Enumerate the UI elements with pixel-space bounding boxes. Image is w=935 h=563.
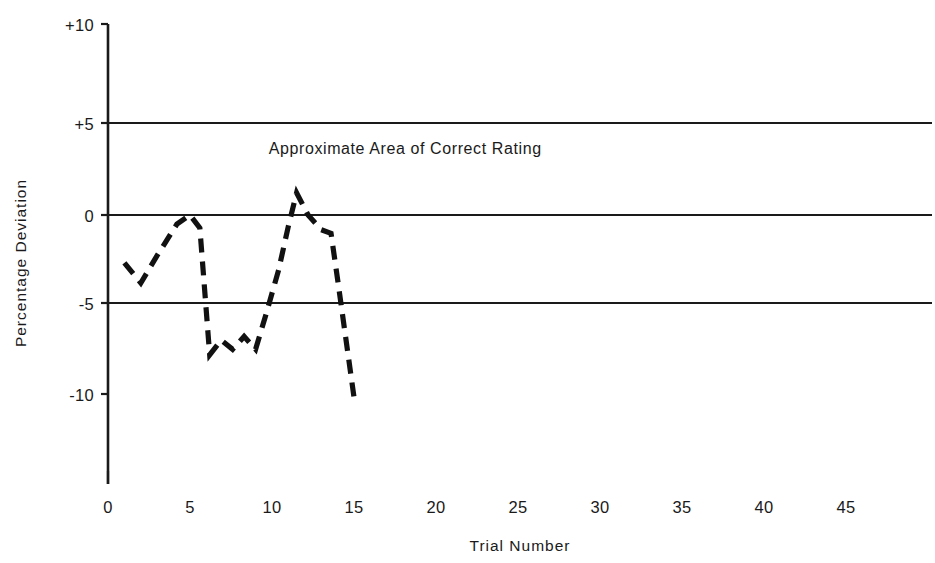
chart-svg: +10 +5 0 -5 -10 0 5 10 15 20 25 30 35 40… — [0, 0, 935, 563]
x-tick-label-15: 15 — [345, 498, 364, 516]
y-axis — [101, 24, 108, 484]
x-tick-label-25: 25 — [509, 498, 528, 516]
x-tick-label-5: 5 — [185, 498, 194, 516]
x-tick-labels: 0 5 10 15 20 25 30 35 40 45 — [103, 498, 855, 516]
y-tick-label-minus5: -5 — [79, 295, 94, 313]
y-tick-label-zero: 0 — [85, 207, 94, 225]
y-tick-label-plus5: +5 — [75, 115, 94, 133]
chart-figure: +10 +5 0 -5 -10 0 5 10 15 20 25 30 35 40… — [0, 0, 935, 563]
x-tick-label-40: 40 — [755, 498, 774, 516]
x-tick-label-45: 45 — [837, 498, 856, 516]
x-tick-label-20: 20 — [427, 498, 446, 516]
y-tick-label-minus10: -10 — [69, 386, 94, 404]
x-tick-label-30: 30 — [591, 498, 610, 516]
annotation-correct-rating: Approximate Area of Correct Rating — [269, 140, 542, 157]
x-tick-label-10: 10 — [263, 498, 282, 516]
series-line-percentage-deviation — [124, 193, 354, 397]
y-tick-labels: +10 +5 0 -5 -10 — [65, 16, 94, 404]
x-tick-label-35: 35 — [673, 498, 692, 516]
y-axis-title: Percentage Deviation — [12, 179, 29, 347]
x-tick-label-0: 0 — [103, 498, 112, 516]
x-axis-title: Trial Number — [470, 537, 571, 554]
y-tick-label-plus10: +10 — [65, 16, 94, 34]
